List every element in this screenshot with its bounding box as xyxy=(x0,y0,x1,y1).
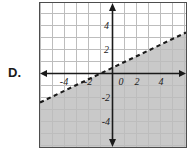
graph-svg xyxy=(40,3,186,147)
y-tick-label-4: 4 xyxy=(104,21,109,31)
graph-plot-area: -4 -2 0 2 4 4 2 -2 -4 xyxy=(40,3,186,147)
y-tick-label--4: -4 xyxy=(102,117,110,127)
coordinate-graph: -4 -2 0 2 4 4 2 -2 -4 xyxy=(39,2,187,148)
choice-letter-label: D. xyxy=(8,63,34,83)
x-axis-left-arrow xyxy=(40,70,47,77)
x-tick-label--4: -4 xyxy=(60,77,68,87)
y-tick-label-2: 2 xyxy=(104,45,109,55)
x-tick-label-4: 4 xyxy=(159,77,164,87)
y-axis-up-arrow xyxy=(109,3,116,11)
answer-choice-panel: D. xyxy=(0,0,190,154)
x-tick-label-2: 2 xyxy=(135,77,140,87)
y-tick-label--2: -2 xyxy=(102,93,110,103)
x-tick-label--2: -2 xyxy=(84,77,92,87)
x-tick-label-0: 0 xyxy=(119,77,124,87)
